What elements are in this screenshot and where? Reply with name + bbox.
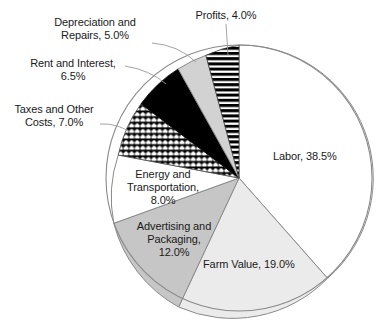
slice-label-rent-line1: Rent and Interest, — [14, 57, 132, 70]
slice-label-profits: Profits, 4.0% — [178, 9, 274, 22]
slice-label-energy-line2: Transportation, — [111, 181, 215, 194]
pie-chart: Profits, 4.0% Depreciation and Repairs, … — [0, 0, 391, 331]
pie-chart-svg — [0, 0, 391, 331]
slice-label-taxes-line1: Taxes and Other — [2, 103, 106, 116]
slice-label-depreciation-line1: Depreciation and — [35, 16, 155, 29]
slice-label-farm-value: Farm Value, 19.0% — [203, 258, 323, 271]
slice-label-depreciation-line2: Repairs, 5.0% — [35, 29, 155, 42]
slice-label-energy-line1: Energy and — [115, 168, 211, 181]
slice-label-energy-line3: 8.0% — [115, 194, 211, 207]
slice-label-advertising-line1: Advertising and — [122, 220, 226, 233]
slice-label-rent-line2: 6.5% — [14, 70, 132, 83]
slice-label-taxes-line2: Costs, 7.0% — [2, 116, 106, 129]
leader-line-depreciation — [152, 43, 196, 62]
slice-label-labor: Labor, 38.5% — [273, 150, 373, 163]
slice-label-advertising-line2: Packaging, — [122, 233, 226, 246]
